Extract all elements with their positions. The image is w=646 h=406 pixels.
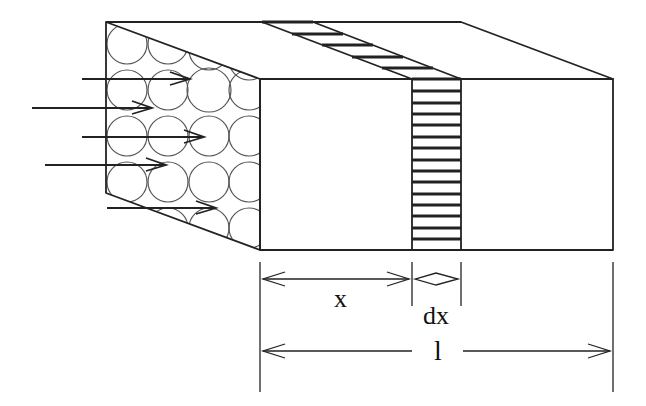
porous-slab-diagram	[0, 0, 646, 406]
front-face	[260, 79, 613, 250]
flow-arrow-icon	[107, 201, 216, 214]
flow-arrow-icon	[32, 101, 152, 114]
dx-label: dx	[423, 303, 449, 329]
dx-dimension-arrow	[415, 273, 458, 285]
slice-front	[412, 79, 461, 250]
flow-arrow-icon	[82, 72, 190, 85]
x-label: x	[334, 286, 347, 312]
flow-arrow-icon	[82, 130, 204, 143]
left-face	[106, 22, 260, 250]
slice-top	[262, 22, 461, 79]
packed-spheres	[107, 24, 269, 248]
length-label: l	[434, 337, 442, 365]
flow-arrows	[32, 72, 216, 214]
